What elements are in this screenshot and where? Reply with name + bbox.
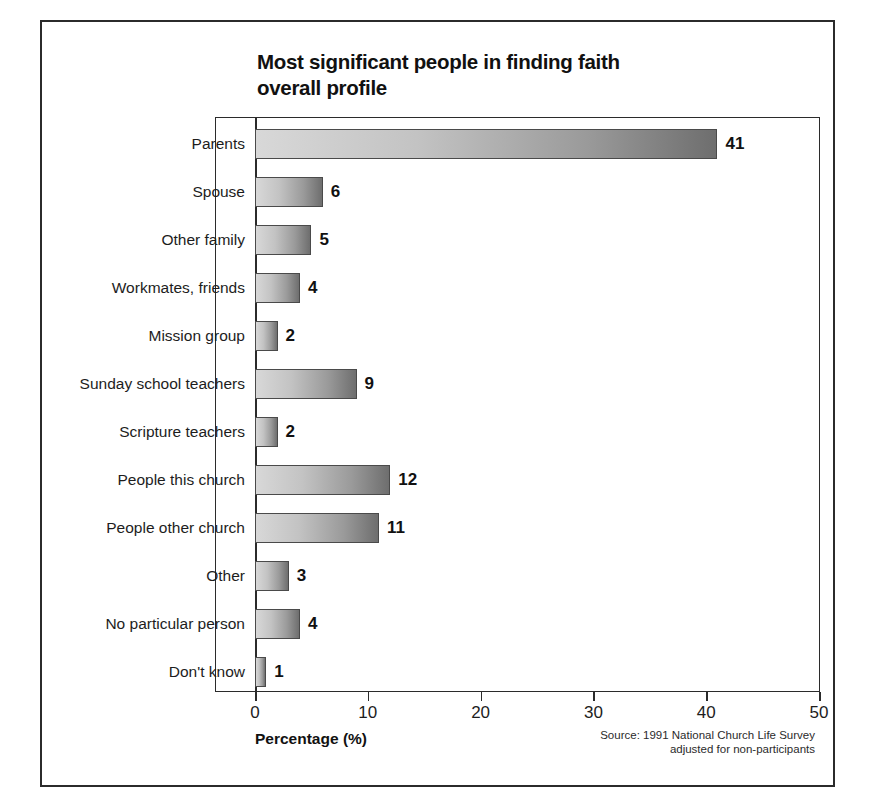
category-label: Other family <box>161 216 245 264</box>
figure-panel: Most significant people in finding faith… <box>40 20 835 787</box>
bar-row: 2 <box>255 408 819 456</box>
bar-value-label: 12 <box>398 465 417 495</box>
category-label: Mission group <box>149 312 246 360</box>
chart-title-line-2: overall profile <box>257 75 777 101</box>
category-axis-labels: ParentsSpouseOther familyWorkmates, frie… <box>42 117 245 692</box>
chart-title-line-1: Most significant people in finding faith <box>257 49 777 75</box>
bar[interactable] <box>255 513 379 543</box>
source-note: Source: 1991 National Church Life Survey… <box>600 728 815 756</box>
bar[interactable] <box>255 369 357 399</box>
bar-value-label: 6 <box>331 177 340 207</box>
bar[interactable] <box>255 465 390 495</box>
source-note-line-1: Source: 1991 National Church Life Survey <box>600 728 815 742</box>
category-label: No particular person <box>105 600 245 648</box>
bar-value-label: 3 <box>297 561 306 591</box>
bar[interactable] <box>255 321 278 351</box>
category-label: Other <box>206 552 245 600</box>
x-tick-label: 10 <box>358 703 377 723</box>
x-axis-ticks: 01020304050 <box>255 692 819 732</box>
bar-row: 9 <box>255 360 819 408</box>
category-label: Workmates, friends <box>112 264 245 312</box>
bar-value-label: 9 <box>365 369 374 399</box>
bar[interactable] <box>255 657 266 687</box>
x-tick-mark <box>481 692 483 701</box>
bar[interactable] <box>255 225 311 255</box>
x-tick-label: 40 <box>697 703 716 723</box>
category-label: Scripture teachers <box>119 408 245 456</box>
category-label: People other church <box>106 504 245 552</box>
x-tick-label: 30 <box>584 703 603 723</box>
bar[interactable] <box>255 609 300 639</box>
bar-value-label: 11 <box>387 513 405 543</box>
bar-row: 5 <box>255 216 819 264</box>
bar-row: 12 <box>255 456 819 504</box>
x-tick-mark <box>819 692 821 701</box>
bar-row: 1 <box>255 648 819 696</box>
x-tick-mark <box>255 692 257 701</box>
bars-container: 416542921211341 <box>255 117 819 692</box>
bar-value-label: 1 <box>274 657 283 687</box>
x-tick-label: 0 <box>250 703 259 723</box>
category-label: Spouse <box>192 168 245 216</box>
bar[interactable] <box>255 417 278 447</box>
bar[interactable] <box>255 561 289 591</box>
x-tick-mark <box>706 692 708 701</box>
x-axis-title: Percentage (%) <box>255 730 367 748</box>
x-tick-label: 50 <box>810 703 829 723</box>
bar-value-label: 2 <box>286 321 295 351</box>
bar[interactable] <box>255 129 717 159</box>
category-label: Sunday school teachers <box>80 360 245 408</box>
bar[interactable] <box>255 177 323 207</box>
x-tick-mark <box>593 692 595 701</box>
bar-row: 3 <box>255 552 819 600</box>
x-tick-mark <box>368 692 370 701</box>
bar-value-label: 5 <box>319 225 328 255</box>
bar-value-label: 4 <box>308 273 317 303</box>
chart-title: Most significant people in finding faith… <box>257 49 777 101</box>
category-label: Parents <box>192 120 245 168</box>
bar-row: 6 <box>255 168 819 216</box>
bar-row: 4 <box>255 264 819 312</box>
category-label: Don't know <box>169 648 245 696</box>
bar-row: 11 <box>255 504 819 552</box>
bar-row: 41 <box>255 120 819 168</box>
bar-value-label: 4 <box>308 609 317 639</box>
bar-row: 4 <box>255 600 819 648</box>
bar-row: 2 <box>255 312 819 360</box>
category-label: People this church <box>117 456 245 504</box>
x-tick-label: 20 <box>471 703 490 723</box>
source-note-line-2: adjusted for non-participants <box>600 742 815 756</box>
bar[interactable] <box>255 273 300 303</box>
bar-value-label: 2 <box>286 417 295 447</box>
bar-value-label: 41 <box>725 129 744 159</box>
